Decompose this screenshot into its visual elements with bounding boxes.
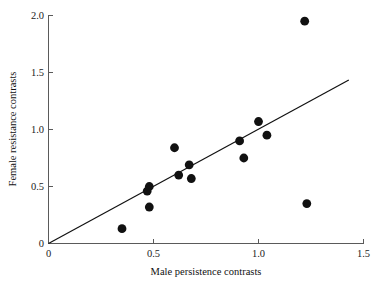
y-tick-label-4: 2.0 — [31, 10, 44, 21]
y-tick-label-2: 1.0 — [31, 124, 44, 135]
x-axis-title: Male persistence contrasts — [151, 266, 262, 277]
data-point — [145, 203, 154, 212]
x-tick-label-0: 0 — [46, 248, 51, 259]
x-tick-label-2: 1.0 — [252, 248, 265, 259]
y-tick-labels: 2.0 1.5 1.0 0.5 0 — [31, 10, 44, 249]
trend-line — [49, 80, 349, 244]
scatter-plot-figure: 2.0 1.5 1.0 0.5 0 0 0.5 1.0 1.5 Male per… — [0, 0, 384, 292]
data-points-group — [118, 17, 312, 233]
axes-group — [48, 15, 364, 244]
y-tick-label-1: 0.5 — [31, 181, 44, 192]
data-point — [118, 224, 127, 233]
data-point — [235, 137, 244, 146]
data-point — [302, 199, 311, 208]
plot-canvas: 2.0 1.5 1.0 0.5 0 0 0.5 1.0 1.5 Male per… — [0, 0, 384, 292]
y-axis-title: Female resistance contrasts — [7, 72, 18, 187]
y-tick-marks — [49, 16, 54, 244]
x-tick-label-1: 0.5 — [147, 248, 160, 259]
x-tick-labels: 0 0.5 1.0 1.5 — [46, 248, 370, 259]
data-point — [300, 17, 309, 26]
data-point — [263, 131, 272, 140]
x-tick-marks — [49, 239, 364, 244]
data-point — [185, 160, 194, 169]
data-point — [174, 171, 183, 180]
data-point — [254, 117, 263, 126]
data-point — [187, 174, 196, 183]
y-tick-label-3: 1.5 — [31, 67, 44, 78]
data-point — [239, 154, 248, 163]
x-tick-label-3: 1.5 — [357, 248, 370, 259]
y-tick-label-0: 0 — [39, 238, 44, 249]
data-point — [170, 143, 179, 152]
data-point — [145, 182, 154, 191]
